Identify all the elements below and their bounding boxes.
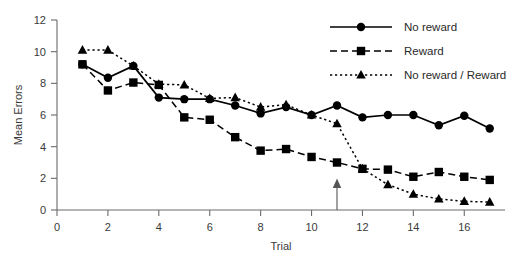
x-tick-label: 0 <box>54 221 60 233</box>
circle-marker <box>231 101 239 109</box>
x-tick-label: 10 <box>305 221 317 233</box>
series-line-1 <box>82 64 489 180</box>
triangle-marker <box>180 80 190 89</box>
x-axis-title: Trial <box>271 240 292 252</box>
legend-label-0: No reward <box>404 21 457 33</box>
legend-item-2: No reward / Reward <box>330 69 506 81</box>
arrow-head <box>334 180 341 188</box>
triangle-marker <box>383 180 393 189</box>
legend-label-1: Reward <box>404 45 444 57</box>
triangle-marker <box>230 93 240 102</box>
annotation-layer <box>334 180 341 210</box>
circle-marker <box>435 121 443 129</box>
y-axis: 024681012 Mean Errors <box>12 14 57 216</box>
circle-marker <box>104 74 112 82</box>
y-tick-label: 6 <box>40 109 46 121</box>
circle-marker <box>409 111 417 119</box>
square-marker <box>104 86 112 94</box>
square-marker <box>384 165 392 173</box>
square-marker <box>409 173 417 181</box>
square-marker <box>206 116 214 124</box>
x-tick-label: 8 <box>258 221 264 233</box>
circle-marker <box>180 95 188 103</box>
mean-errors-line-chart: 024681012 Mean Errors 0246810121416 Tria… <box>0 0 520 268</box>
square-marker <box>231 133 239 141</box>
triangle-marker <box>356 70 366 79</box>
legend-item-1: Reward <box>330 45 444 57</box>
y-tick-label: 10 <box>34 46 46 58</box>
circle-marker <box>460 112 468 120</box>
circle-marker <box>155 93 163 101</box>
circle-marker <box>358 113 366 121</box>
square-marker <box>282 145 290 153</box>
square-marker <box>129 78 137 86</box>
circle-marker <box>333 101 341 109</box>
x-axis-ticks: 0246810121416 <box>54 210 470 233</box>
x-tick-label: 2 <box>105 221 111 233</box>
x-axis: 0246810121416 Trial <box>54 210 505 252</box>
y-axis-ticks: 024681012 <box>34 14 57 216</box>
x-tick-label: 12 <box>356 221 368 233</box>
x-tick-label: 4 <box>156 221 162 233</box>
square-marker <box>435 168 443 176</box>
square-marker <box>307 153 315 161</box>
x-tick-label: 16 <box>458 221 470 233</box>
square-marker <box>486 176 494 184</box>
chart-legend: No rewardRewardNo reward / Reward <box>330 21 506 81</box>
triangle-marker <box>78 45 88 54</box>
square-marker <box>256 146 264 154</box>
reversal-arrow <box>334 180 341 210</box>
chart-figure: 024681012 Mean Errors 0246810121416 Tria… <box>0 0 520 268</box>
legend-item-0: No reward <box>330 21 457 33</box>
x-tick-label: 6 <box>207 221 213 233</box>
circle-marker <box>486 124 494 132</box>
circle-marker <box>357 23 365 31</box>
y-tick-label: 2 <box>40 172 46 184</box>
y-tick-label: 12 <box>34 14 46 26</box>
triangle-marker <box>281 100 291 109</box>
triangle-marker <box>409 189 419 198</box>
square-marker <box>357 47 365 55</box>
y-tick-label: 0 <box>40 204 46 216</box>
square-marker <box>180 113 188 121</box>
square-marker <box>460 173 468 181</box>
square-marker <box>78 60 86 68</box>
y-tick-label: 4 <box>40 141 46 153</box>
circle-marker <box>384 111 392 119</box>
y-tick-label: 8 <box>40 77 46 89</box>
square-marker <box>333 158 341 166</box>
y-axis-title: Mean Errors <box>12 84 24 145</box>
legend-label-2: No reward / Reward <box>404 69 506 81</box>
x-tick-label: 14 <box>407 221 419 233</box>
